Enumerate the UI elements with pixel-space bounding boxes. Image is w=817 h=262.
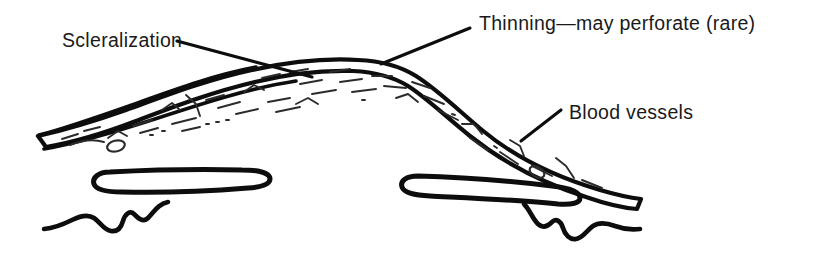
texture-dash [300,80,322,84]
anatomical-figure: Scleralization Thinning—may perforate (r… [0,0,817,262]
texture-dash [182,127,200,131]
texture-dash [218,102,240,108]
label-blood-vessels: Blood vessels [569,101,693,123]
texture-dash [276,107,300,112]
texture-dot [452,114,455,115]
inner-loop-left [94,170,270,193]
label-scleralization: Scleralization [62,29,182,51]
inner-loops-group [94,170,580,205]
texture-chevron [396,94,418,102]
texture-dash [312,90,336,94]
blood-vessels-leader [521,110,561,141]
ciliary-tails-group [44,202,640,239]
texture-dash [352,89,376,92]
label-thinning: Thinning—may perforate (rare) [479,12,755,34]
thinning-leader [381,28,470,64]
texture-dash [384,86,406,88]
texture-dash [172,118,196,124]
ciliary-tail-right [524,204,640,239]
texture-dash [268,98,290,102]
texture-dash [340,79,362,82]
texture-chevron [296,98,318,104]
vessel-cross-section-left [106,139,126,154]
figure-canvas: Scleralization Thinning—may perforate (r… [0,0,817,262]
texture-dash [236,109,258,114]
texture-dash [140,128,158,133]
ciliary-tail-left [44,202,168,231]
